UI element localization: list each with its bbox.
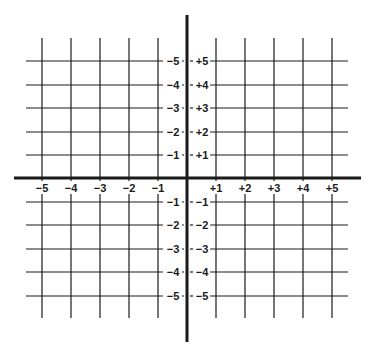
y-label: +2 — [196, 126, 209, 138]
x-label: −5 — [36, 182, 49, 194]
y-label: −3 — [167, 102, 180, 114]
y-label: −5 — [167, 290, 180, 302]
y-label: −3 — [196, 243, 209, 255]
y-label: +4 — [196, 79, 209, 91]
y-label: −5 — [196, 290, 209, 302]
y-label: −4 — [167, 266, 180, 278]
y-label: −4 — [196, 266, 209, 278]
coordinate-plane: −5 −4 −3 −2 −1 +1 +2 +3 +4 +5 −5 −4 −3 −… — [0, 0, 374, 355]
x-label: −3 — [94, 182, 107, 194]
y-label: −2 — [167, 219, 180, 231]
y-label: −1 — [167, 196, 180, 208]
x-label: +2 — [239, 182, 252, 194]
x-label: +1 — [210, 182, 223, 194]
x-label: +4 — [297, 182, 310, 194]
y-axis-labels-lower-right: −1 −2 −3 −4 −5 — [196, 196, 209, 302]
y-label: +3 — [196, 102, 209, 114]
y-label: −3 — [167, 243, 180, 255]
x-label: +5 — [326, 182, 339, 194]
x-label: −4 — [65, 182, 78, 194]
y-axis-labels-upper-right: +5 +4 +3 +2 +1 — [196, 55, 209, 161]
y-label: −2 — [196, 219, 209, 231]
y-label: +1 — [196, 149, 209, 161]
y-label: −1 — [167, 149, 180, 161]
x-label: −2 — [123, 182, 136, 194]
y-label: −4 — [167, 79, 180, 91]
y-label: −2 — [167, 126, 180, 138]
x-label: +3 — [268, 182, 281, 194]
y-label: −1 — [196, 196, 209, 208]
x-label: −1 — [152, 182, 165, 194]
y-axis-labels-upper-left: −5 −4 −3 −2 −1 — [167, 55, 180, 161]
y-axis-labels-lower-left: −1 −2 −3 −4 −5 — [167, 196, 180, 302]
y-label: −5 — [167, 55, 180, 67]
y-label: +5 — [196, 55, 209, 67]
